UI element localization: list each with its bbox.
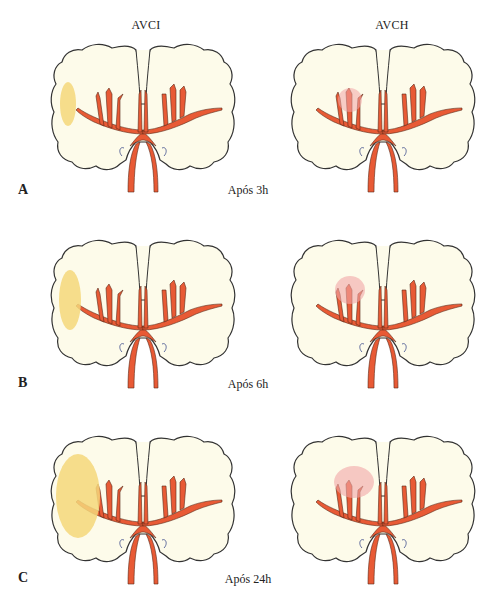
brain-diagram-icon xyxy=(50,42,250,192)
brain-diagram-icon xyxy=(50,434,250,584)
column-title-hemorrhagic: AVCH xyxy=(362,18,422,33)
brain-diagram-icon xyxy=(50,238,250,388)
panel-c-hemorrhagic xyxy=(290,434,490,584)
hemorrhagic-lesion xyxy=(334,466,374,498)
panel-b-ischemic xyxy=(50,238,250,388)
row-label-b: B xyxy=(18,375,27,391)
column-title-ischemic: AVCI xyxy=(116,18,176,33)
row-label-a: A xyxy=(18,182,28,198)
hemorrhagic-lesion xyxy=(335,276,365,304)
ischemic-lesion xyxy=(56,454,100,538)
brain-diagram-icon xyxy=(290,238,490,388)
panel-a-hemorrhagic xyxy=(290,42,490,192)
brain-diagram-icon xyxy=(290,42,490,192)
row-label-c: C xyxy=(18,570,28,586)
ischemic-lesion xyxy=(59,270,81,330)
panel-b-hemorrhagic xyxy=(290,238,490,388)
panel-c-ischemic xyxy=(50,434,250,584)
ischemic-lesion xyxy=(60,82,76,126)
brain-diagram-icon xyxy=(290,434,490,584)
panel-a-ischemic xyxy=(50,42,250,192)
